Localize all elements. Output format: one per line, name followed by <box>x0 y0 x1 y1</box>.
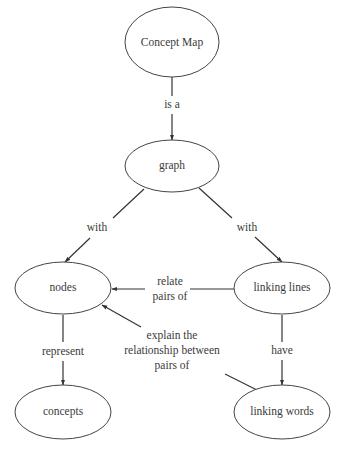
edge-with-left: with <box>65 189 144 262</box>
edge-label-relate-1: relate <box>157 275 183 287</box>
edge-label-have: have <box>271 344 293 356</box>
edge-label-represent: represent <box>42 345 85 358</box>
node-label-concept-map: Concept Map <box>141 36 204 49</box>
edge-label-with-right: with <box>237 221 258 233</box>
edge-arrow <box>65 238 90 262</box>
node-label-graph: graph <box>159 159 185 172</box>
edge-label-explain-2: relationship between <box>124 344 220 357</box>
node-label-linking-words: linking words <box>250 405 314 418</box>
edge-label-is-a: is a <box>164 98 180 110</box>
edge-line <box>113 189 144 218</box>
node-graph: graph <box>125 140 219 192</box>
node-label-nodes: nodes <box>50 281 77 293</box>
edge-label-explain-3: pairs of <box>155 359 190 372</box>
node-concepts: concepts <box>15 385 111 439</box>
concept-map-diagram: is a with with relate pairs of explain t… <box>0 0 345 455</box>
edge-label-with-left: with <box>87 221 108 233</box>
edge-is-a: is a <box>164 77 180 140</box>
edge-line <box>199 188 232 218</box>
edge-line <box>225 374 257 390</box>
edge-label-explain-1: explain the <box>147 329 198 342</box>
edge-relate-pairs-of: relate pairs of <box>112 275 234 303</box>
edge-with-right: with <box>199 188 282 262</box>
edge-arrow <box>255 237 282 262</box>
node-concept-map: Concept Map <box>125 7 219 77</box>
node-nodes: nodes <box>15 262 111 314</box>
node-linking-words: linking words <box>234 385 330 439</box>
edge-label-relate-2: pairs of <box>153 290 188 303</box>
node-label-linking-lines: linking lines <box>253 281 311 294</box>
node-linking-lines: linking lines <box>234 262 330 314</box>
edge-explain-relationship: explain the relationship between pairs o… <box>102 305 257 390</box>
edge-arrow <box>102 305 141 327</box>
diagram-svg: is a with with relate pairs of explain t… <box>0 0 345 455</box>
node-label-concepts: concepts <box>43 405 84 418</box>
edge-represent: represent <box>42 315 85 385</box>
edge-have: have <box>271 315 293 385</box>
